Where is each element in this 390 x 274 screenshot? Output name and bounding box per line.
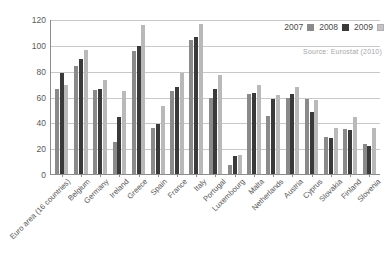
bar-group bbox=[129, 20, 148, 174]
plot-area bbox=[50, 20, 380, 175]
y-axis-tick-label: 20 bbox=[16, 144, 46, 154]
legend-label-2008: 2008 bbox=[319, 22, 338, 32]
y-axis-tick-label: 60 bbox=[16, 93, 46, 103]
bar-2008 bbox=[348, 130, 352, 174]
bar-2008 bbox=[98, 89, 102, 174]
bar-2009 bbox=[103, 80, 107, 174]
bar-group bbox=[110, 20, 129, 174]
bar-2007 bbox=[189, 40, 193, 174]
bar-2007 bbox=[343, 129, 347, 174]
bar-2007 bbox=[74, 66, 78, 175]
bar-2007 bbox=[228, 165, 232, 174]
bar-2007 bbox=[363, 144, 367, 174]
bar-2007 bbox=[247, 94, 251, 174]
bar-2008 bbox=[79, 59, 83, 174]
bar-2009 bbox=[161, 106, 165, 174]
bar-2008 bbox=[252, 93, 256, 174]
bar-group bbox=[148, 20, 167, 174]
bar-2007 bbox=[151, 128, 155, 175]
y-axis-tick-label: 0 bbox=[16, 170, 46, 180]
bar-group bbox=[71, 20, 90, 174]
bar-2009 bbox=[122, 91, 126, 174]
x-axis-tick-label: Austria bbox=[282, 177, 305, 200]
legend-entry-2009: 2009 bbox=[354, 22, 384, 32]
bar-2007 bbox=[170, 91, 174, 174]
y-axis-tick-label: 120 bbox=[16, 15, 46, 25]
bar-2009 bbox=[218, 75, 222, 174]
bar-2008 bbox=[175, 87, 179, 174]
y-axis-tick-label: 100 bbox=[16, 41, 46, 51]
legend-swatch-2008-icon bbox=[342, 24, 349, 31]
legend-swatch-2009-icon bbox=[377, 24, 384, 31]
bar-group bbox=[187, 20, 206, 174]
bar-group bbox=[264, 20, 283, 174]
bar-2008 bbox=[310, 112, 314, 174]
y-axis-tick-label: 40 bbox=[16, 118, 46, 128]
source-note: Source: Eurostat (2010) bbox=[303, 48, 382, 55]
bar-2009 bbox=[334, 128, 338, 175]
bar-2009 bbox=[314, 100, 318, 174]
bar-2009 bbox=[295, 87, 299, 174]
bars-layer bbox=[51, 20, 380, 174]
bar-2008 bbox=[156, 124, 160, 174]
bar-2008 bbox=[233, 156, 237, 174]
bar-group bbox=[341, 20, 360, 174]
legend-entry-2008: 2008 bbox=[319, 22, 349, 32]
bar-2008 bbox=[290, 94, 294, 174]
bar-2008 bbox=[329, 138, 333, 174]
bar-2008 bbox=[367, 146, 371, 174]
bar-2009 bbox=[257, 85, 261, 174]
bar-2008 bbox=[60, 73, 64, 174]
bar-2009 bbox=[199, 24, 203, 174]
legend-swatch-2007-icon bbox=[307, 24, 314, 31]
legend-entry-2007: 2007 bbox=[284, 22, 314, 32]
bar-2009 bbox=[276, 95, 280, 174]
x-axis-tick-label: France bbox=[165, 177, 188, 200]
bar-group bbox=[225, 20, 244, 174]
bar-2007 bbox=[266, 116, 270, 174]
chart-legend: 2007 2008 2009 bbox=[284, 22, 384, 32]
x-axis-tick-label: Italy bbox=[192, 177, 208, 193]
x-axis-tick-label: Greece bbox=[126, 177, 150, 201]
bar-2009 bbox=[84, 50, 88, 174]
bar-2009 bbox=[238, 155, 242, 174]
y-axis-tick-label: 80 bbox=[16, 67, 46, 77]
bar-2008 bbox=[117, 117, 121, 174]
bar-group bbox=[90, 20, 109, 174]
bar-2009 bbox=[353, 117, 357, 174]
bar-2007 bbox=[305, 99, 309, 174]
bar-2008 bbox=[194, 37, 198, 174]
bar-2009 bbox=[180, 73, 184, 174]
bar-group bbox=[283, 20, 302, 174]
bar-2009 bbox=[372, 128, 376, 175]
bar-2007 bbox=[324, 137, 328, 174]
bar-group bbox=[206, 20, 225, 174]
bar-2007 bbox=[93, 90, 97, 174]
bar-2008 bbox=[271, 99, 275, 174]
legend-label-2009: 2009 bbox=[354, 22, 373, 32]
bar-2008 bbox=[213, 89, 217, 174]
x-axis-tick-labels: Euro area (16 countries)BelgiumGermanyIr… bbox=[50, 177, 380, 272]
bar-group bbox=[321, 20, 340, 174]
bar-group bbox=[302, 20, 321, 174]
bar-chart: 020406080100120 2007 2008 2009 Source: E… bbox=[0, 0, 390, 274]
bar-group bbox=[52, 20, 71, 174]
bar-group bbox=[244, 20, 263, 174]
bar-2009 bbox=[64, 85, 68, 174]
x-axis-tick-label: Euro area (16 countries) bbox=[8, 177, 72, 241]
legend-label-2007: 2007 bbox=[284, 22, 303, 32]
bar-2007 bbox=[209, 98, 213, 174]
bar-group bbox=[167, 20, 186, 174]
bar-group bbox=[360, 20, 379, 174]
bar-2007 bbox=[132, 51, 136, 174]
bar-2007 bbox=[113, 142, 117, 174]
bar-2007 bbox=[55, 89, 59, 174]
bar-2007 bbox=[286, 98, 290, 174]
bar-2009 bbox=[141, 25, 145, 174]
bar-2008 bbox=[137, 46, 141, 174]
